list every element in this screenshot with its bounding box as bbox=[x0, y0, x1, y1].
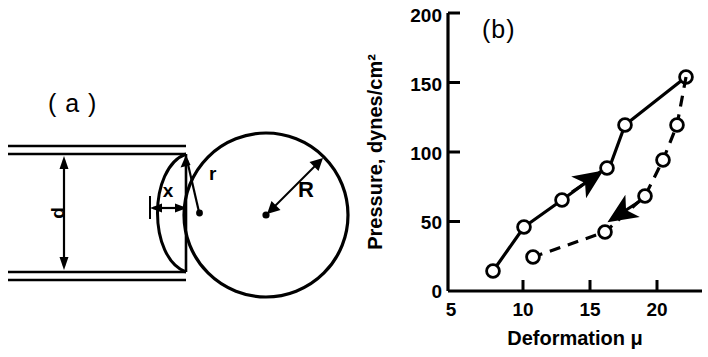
loading-direction-arrow bbox=[572, 179, 591, 192]
panel-a-svg: ( a ) d x bbox=[0, 0, 358, 357]
x-tick-marks bbox=[523, 280, 657, 291]
panel-b-tag: (b) bbox=[482, 15, 516, 43]
x-tick-label-15: 15 bbox=[579, 299, 601, 320]
x-label: x bbox=[163, 180, 174, 201]
y-tick-label-200: 200 bbox=[410, 5, 442, 26]
panel-b-svg: (b) 200 150 100 50 0 bbox=[350, 0, 708, 357]
loading-curve-markers bbox=[487, 71, 693, 278]
y-tick-label-150: 150 bbox=[410, 74, 442, 95]
r-label: r bbox=[209, 163, 217, 184]
x-tick-label-20: 20 bbox=[646, 299, 667, 320]
y-tick-label-100: 100 bbox=[410, 143, 442, 164]
x-axis-title: Deformation μ bbox=[507, 327, 643, 349]
y-tick-marks bbox=[448, 13, 460, 222]
meniscus-arc bbox=[158, 154, 187, 272]
panel-a-schematic: ( a ) d x bbox=[0, 0, 358, 357]
d-arrowhead-bottom bbox=[60, 257, 69, 270]
x-tick-label-10: 10 bbox=[512, 299, 533, 320]
y-axis-title: Pressure, dynes/cm² bbox=[364, 54, 386, 250]
unloading-curve-markers bbox=[527, 119, 684, 264]
panel-a-tag: ( a ) bbox=[48, 89, 97, 117]
unloading-direction-arrow bbox=[620, 201, 640, 214]
x-arrowhead-left bbox=[150, 204, 162, 213]
r-origin-dot bbox=[196, 210, 203, 217]
R-label: R bbox=[298, 177, 314, 202]
x-tick-label-5: 5 bbox=[446, 299, 457, 320]
y-tick-label-0: 0 bbox=[431, 281, 442, 302]
y-tick-label-50: 50 bbox=[421, 212, 442, 233]
panel-b-chart: (b) 200 150 100 50 0 bbox=[350, 0, 708, 357]
figure-container: ( a ) d x bbox=[0, 0, 708, 357]
d-label: d bbox=[47, 207, 68, 219]
d-arrowhead-top bbox=[60, 156, 69, 169]
